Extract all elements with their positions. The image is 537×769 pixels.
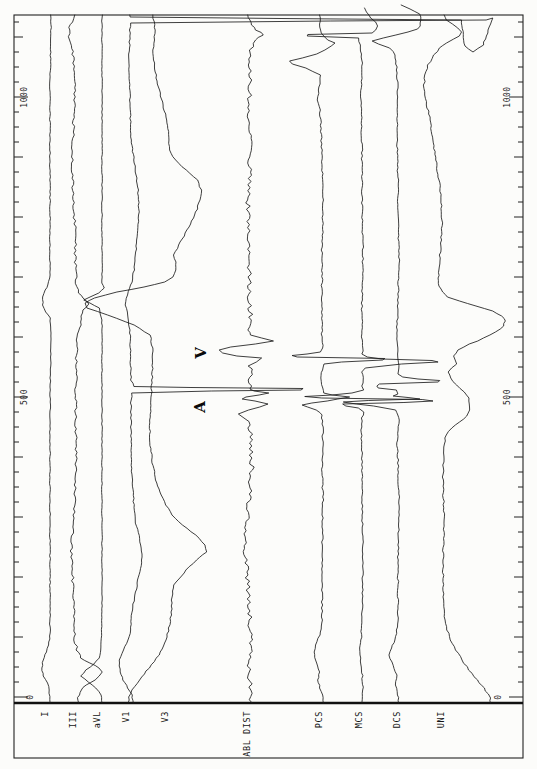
channel-label-UNI: UNI: [436, 711, 446, 728]
channel-label-I: I: [40, 711, 50, 717]
channel-trace-MCS: [305, 8, 438, 703]
channel-trace-UNI: [423, 15, 505, 703]
channel-trace-V1: [119, 15, 493, 703]
channel-label-III: III: [68, 711, 78, 728]
channel-label-ABL-DIST: ABL DIST: [242, 711, 252, 757]
left-axis-tick-label: 1000: [20, 86, 29, 107]
scanned-ep-recording-page: 0050050010001000IIIIaVLV1V3ABL DISTPCSMC…: [0, 0, 537, 769]
channel-trace-PCS: [290, 15, 385, 703]
channel-trace-I: [42, 15, 52, 703]
outer-frame: [14, 15, 523, 758]
channel-label-DCS: DCS: [392, 711, 402, 728]
channel-label-aVL: aVL: [92, 711, 102, 728]
channel-label-V1: V1: [121, 711, 131, 722]
channel-label-MCS: MCS: [354, 711, 364, 728]
channel-label-V3: V3: [160, 711, 170, 722]
right-axis-tick-label: 1000: [503, 86, 512, 107]
channel-label-PCS: PCS: [314, 711, 324, 728]
event-marker-V: V: [192, 347, 210, 360]
channel-trace-DCS: [343, 5, 439, 703]
event-marker-A: A: [191, 401, 209, 414]
channel-trace-III: [68, 15, 102, 703]
channel-trace-ABL-DIST: [219, 15, 273, 703]
left-axis-tick-label: 0: [26, 694, 35, 699]
ep-strip-chart: 0050050010001000IIIIaVLV1V3ABL DISTPCSMC…: [0, 0, 537, 769]
left-axis-tick-label: 500: [20, 389, 29, 405]
right-axis-tick-label: 500: [503, 389, 512, 405]
channel-trace-V3: [85, 15, 207, 703]
right-axis-tick-label: 0: [494, 694, 503, 699]
channel-trace-aVL: [81, 15, 105, 703]
